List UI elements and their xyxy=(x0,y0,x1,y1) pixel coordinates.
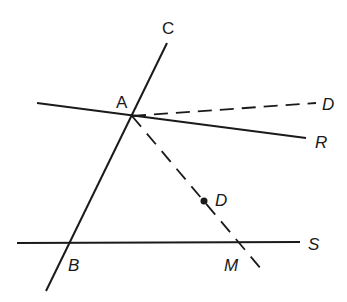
line-cb xyxy=(46,43,167,291)
label-d-point: D xyxy=(215,191,227,210)
label-s: S xyxy=(308,235,320,254)
label-r: R xyxy=(315,133,327,152)
label-d-top: D xyxy=(322,95,334,114)
line-s xyxy=(17,242,300,243)
geometry-diagram: C A D R D S B M xyxy=(0,0,347,302)
label-b: B xyxy=(68,256,79,275)
line-ar xyxy=(37,103,306,138)
ray-ad-dashed xyxy=(132,103,316,116)
label-c: C xyxy=(162,19,174,38)
ray-am-dashed xyxy=(132,116,262,270)
label-m: M xyxy=(224,256,239,275)
point-d-dot xyxy=(201,198,208,205)
label-a: A xyxy=(116,93,128,112)
